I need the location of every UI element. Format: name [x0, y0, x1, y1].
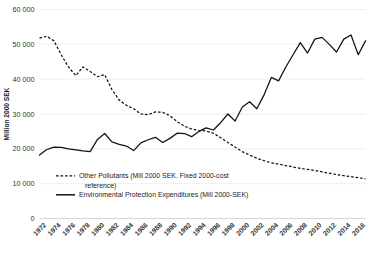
chart-legend: Other Pollutants (Mill 2000 SEK. Fixed 2… — [56, 172, 248, 199]
y-tick-label: 40 000 — [13, 75, 35, 84]
x-tick-label: 2008 — [293, 221, 309, 237]
x-tick-label: 1986 — [133, 221, 149, 237]
y-tick-label: 20 000 — [13, 144, 35, 153]
x-tick-label: 1992 — [177, 221, 193, 237]
x-tick-label: 2016 — [351, 221, 367, 237]
series-line-solid — [40, 35, 366, 155]
x-tick-label: 1980 — [90, 221, 106, 237]
y-axis-title-text: Million 2000 SEK — [3, 87, 10, 140]
data-series-group — [40, 35, 366, 179]
x-tick-label: 1996 — [206, 221, 222, 237]
x-tick-label: 2010 — [307, 221, 323, 237]
series-line-dashed — [40, 36, 366, 178]
x-tick-label: 2014 — [336, 221, 352, 237]
legend-label-continued: reference) — [85, 182, 116, 190]
x-tick-label: 1972 — [32, 221, 48, 237]
y-tick-label: 10 000 — [13, 179, 35, 188]
x-tick-label: 2012 — [322, 221, 338, 237]
legend-label: Environmental Protection Expenditures (M… — [79, 191, 248, 199]
x-tick-label: 1982 — [104, 221, 120, 237]
line-chart: 010 00020 00030 00040 00050 00060 000 19… — [0, 0, 370, 256]
x-tick-label: 1994 — [191, 221, 207, 237]
legend-label: Other Pollutants (Mill 2000 SEK. Fixed 2… — [79, 172, 229, 180]
y-axis-tick-labels: 010 00020 00030 00040 00050 00060 000 — [13, 5, 35, 223]
x-tick-label: 1978 — [75, 221, 91, 237]
gridlines — [40, 10, 366, 184]
x-tick-label: 1990 — [162, 221, 178, 237]
x-tick-label: 1984 — [119, 221, 135, 237]
x-tick-label: 1988 — [148, 221, 164, 237]
y-tick-label: 30 000 — [13, 110, 35, 119]
y-axis-title: Million 2000 SEK — [3, 87, 10, 140]
x-tick-label: 1998 — [220, 221, 236, 237]
y-tick-label: 0 — [31, 214, 35, 223]
y-tick-label: 60 000 — [13, 5, 35, 14]
x-axis-tick-labels: 1972197419761978198019821984198619881990… — [32, 221, 367, 237]
chart-container: 010 00020 00030 00040 00050 00060 000 19… — [0, 0, 370, 256]
x-tick-label: 2006 — [278, 221, 294, 237]
x-tick-label: 2004 — [264, 221, 280, 237]
y-tick-label: 50 000 — [13, 40, 35, 49]
x-tick-label: 1976 — [61, 221, 77, 237]
x-tick-label: 2002 — [249, 221, 265, 237]
x-tick-label: 2000 — [235, 221, 251, 237]
x-tick-label: 1974 — [46, 221, 62, 237]
